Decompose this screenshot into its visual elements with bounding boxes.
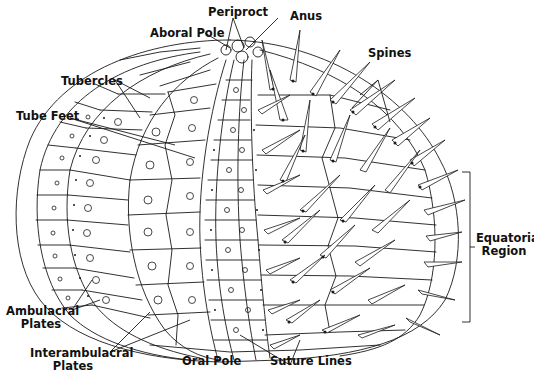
test-outline <box>16 40 458 362</box>
label-periproct: Periproct <box>208 6 268 19</box>
label-ambulacral-plates: Ambulacral Plates <box>6 305 76 331</box>
label-tubercles: Tubercles <box>61 75 123 88</box>
label-ambulacral-plates-line2: Plates <box>6 318 76 331</box>
label-anus: Anus <box>290 10 322 23</box>
label-spines: Spines <box>368 47 411 60</box>
diagram-drawing <box>0 0 534 380</box>
sea-urchin-diagram: Periproct Anus Aboral Pole Spines Tuberc… <box>0 0 534 380</box>
label-interambulacral-plates-line2: Plates <box>30 360 116 373</box>
label-equatorial-region: Equatorial Region <box>476 232 532 258</box>
label-interambulacral-plates: Interambulacral Plates <box>30 347 116 373</box>
label-aboral-pole: Aboral Pole <box>150 27 224 40</box>
label-suture-lines: Suture Lines <box>270 355 352 368</box>
label-tube-feet: Tube Feet <box>16 110 79 123</box>
label-oral-pole: Oral Pole <box>182 355 241 368</box>
label-equatorial-region-line2: Region <box>476 245 532 258</box>
